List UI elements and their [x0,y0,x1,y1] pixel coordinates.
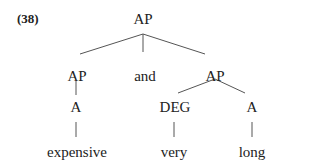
node-ap-left: AP [67,68,86,84]
word-very: very [161,144,188,160]
node-ap-right: AP [205,68,224,84]
word-expensive: expensive [47,144,107,160]
node-a-left: A [71,99,82,115]
node-conj-and: and [134,68,156,84]
node-root-ap: AP [133,11,152,27]
node-a-right: A [247,99,258,115]
word-long: long [239,144,266,160]
node-deg: DEG [160,99,191,115]
